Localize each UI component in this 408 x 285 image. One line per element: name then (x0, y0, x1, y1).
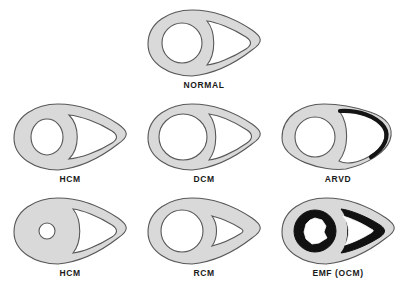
heart-cross-section-hcm-lower-icon (2, 192, 138, 270)
panel-label-dcm: DCM (136, 174, 272, 184)
panel-label-arvd: ARVD (270, 174, 406, 184)
panel-label-normal: NORMAL (136, 80, 272, 90)
heart-cross-section-arvd-icon (270, 98, 406, 176)
heart-cross-section-emf-ocm-icon (270, 192, 406, 270)
panel-label-emf-ocm: EMF (OCM) (270, 268, 406, 278)
heart-cross-section-hcm-upper-icon (2, 98, 138, 176)
panel-label-rcm: RCM (136, 268, 272, 278)
heart-cross-section-rcm-icon (136, 192, 272, 270)
heart-cross-section-normal-icon (136, 4, 272, 82)
panel-hcm-lower: HCM (2, 192, 138, 285)
cardiomyopathy-figure: NORMAL HCM DCM (0, 0, 408, 285)
panel-normal: NORMAL (136, 4, 272, 99)
panel-rcm: RCM (136, 192, 272, 285)
panel-emf-ocm: EMF (OCM) (270, 192, 406, 285)
panel-label-hcm-lower: HCM (2, 268, 138, 278)
panel-arvd: ARVD (270, 98, 406, 193)
panel-dcm: DCM (136, 98, 272, 193)
panel-label-hcm-upper: HCM (2, 174, 138, 184)
panel-hcm-upper: HCM (2, 98, 138, 193)
heart-cross-section-dcm-icon (136, 98, 272, 176)
